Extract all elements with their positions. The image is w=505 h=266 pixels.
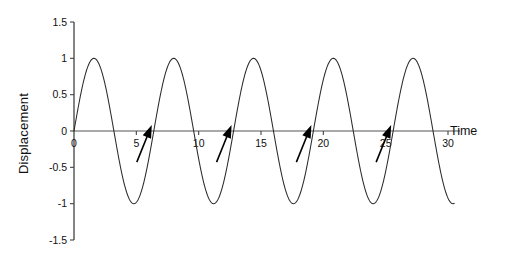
x-tick-label: 0 [71,137,77,149]
y-tick-label: 1 [61,52,67,64]
arrow-head [143,125,152,139]
y-tick-label: -1.5 [49,234,67,246]
x-tick-label: 20 [317,137,329,149]
arrow-shaft [296,134,307,162]
y-tick-label: 0 [61,125,67,137]
x-axis-title: Time [450,124,477,138]
x-tick-label: 5 [133,137,139,149]
y-axis-ticks: 1.510.50-0.5-1-1.5 [49,16,74,246]
y-tick-label: -1 [58,197,67,209]
arrow-shaft [217,134,228,162]
y-tick-label: -0.5 [49,161,67,173]
x-tick-label: 30 [442,137,454,149]
y-tick-label: 0.5 [52,88,67,100]
plot-area: 1.510.50-0.5-1-1.5 051015202530 [0,0,505,266]
arrow-head [302,125,311,139]
x-axis-ticks: 051015202530 [71,131,454,149]
x-tick-label: 15 [255,137,267,149]
displacement-time-chart: Displacement Time 1.510.50-0.5-1-1.5 051… [0,0,505,266]
y-tick-label: 1.5 [52,16,67,28]
arrow-head [223,125,232,139]
axes-group [74,22,460,240]
